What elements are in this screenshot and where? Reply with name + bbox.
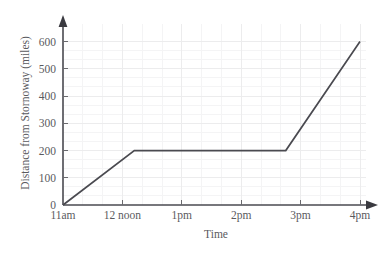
x-axis-tick-label: 1pm	[172, 209, 193, 222]
y-axis-tick-label: 600	[39, 36, 57, 48]
y-axis-title: Distance from Stornoway (miles)	[19, 36, 32, 190]
y-axis-tick-label: 300	[39, 117, 57, 129]
axes	[59, 15, 378, 209]
y-axis-tick-label: 0	[50, 199, 56, 211]
x-axis-tick-labels: 11am12 noon1pm2pm3pm4pm	[50, 209, 370, 222]
y-axis-tick-label: 100	[39, 172, 57, 184]
y-axis-tick-label: 500	[39, 63, 57, 75]
x-axis-tick-label: 3pm	[290, 209, 311, 222]
distance-time-chart: 11am12 noon1pm2pm3pm4pm 0100200300400500…	[0, 0, 391, 255]
x-axis-title: Time	[204, 228, 228, 240]
y-axis-arrowhead	[59, 15, 68, 27]
x-axis-tick-label: 12 noon	[104, 209, 142, 221]
x-axis-tick-label: 2pm	[231, 209, 252, 222]
x-axis-tick-label: 4pm	[350, 209, 371, 222]
y-axis-tick-label: 400	[39, 90, 57, 102]
chart-canvas: 11am12 noon1pm2pm3pm4pm 0100200300400500…	[0, 0, 391, 255]
y-axis-tick-label: 200	[39, 145, 57, 157]
y-axis-tick-labels: 0100200300400500600	[39, 36, 57, 211]
